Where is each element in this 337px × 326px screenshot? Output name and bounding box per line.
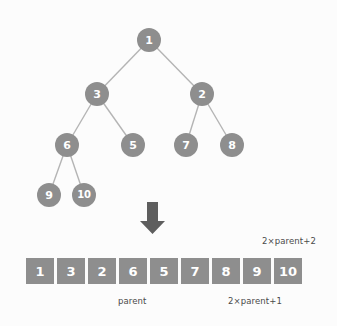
tree-edge-2-8 bbox=[208, 103, 227, 135]
tree-edge-1-2 bbox=[157, 48, 195, 86]
array-cell-6: 8 bbox=[212, 258, 240, 284]
tree-node-7: 7 bbox=[174, 133, 198, 157]
array-cell-1: 3 bbox=[57, 258, 85, 284]
array-representation: 1326578910 bbox=[26, 258, 302, 284]
array-cell-2: 2 bbox=[88, 258, 116, 284]
tree-node-3: 3 bbox=[85, 82, 109, 106]
down-arrow-icon bbox=[139, 202, 166, 235]
array-cell-5: 7 bbox=[181, 258, 209, 284]
tree-node-6: 6 bbox=[55, 133, 79, 157]
diagram-canvas: 1326578910 1326578910 2×parent+2 parent … bbox=[0, 0, 337, 326]
tree-node-5: 5 bbox=[121, 133, 145, 157]
caption-left-child-formula: 2×parent+1 bbox=[228, 296, 282, 306]
tree-edge-3-5 bbox=[103, 103, 126, 136]
tree-edge-6-9 bbox=[53, 155, 64, 184]
caption-parent: parent bbox=[118, 296, 146, 306]
tree-edge-6-10 bbox=[71, 155, 81, 184]
tree-node-10: 10 bbox=[72, 183, 96, 207]
tree-node-1: 1 bbox=[137, 28, 161, 52]
tree-node-2: 2 bbox=[190, 82, 214, 106]
array-cell-7: 9 bbox=[243, 258, 271, 284]
tree-edge-2-7 bbox=[189, 104, 198, 134]
array-cell-4: 5 bbox=[150, 258, 178, 284]
tree-node-8: 8 bbox=[220, 133, 244, 157]
array-cell-8: 10 bbox=[274, 258, 302, 284]
array-cell-3: 6 bbox=[119, 258, 147, 284]
tree-edge-1-3 bbox=[105, 48, 142, 86]
tree-edge-3-6 bbox=[73, 103, 92, 135]
tree-node-9: 9 bbox=[37, 183, 61, 207]
array-cell-0: 1 bbox=[26, 258, 54, 284]
caption-right-child-formula: 2×parent+2 bbox=[262, 236, 316, 246]
